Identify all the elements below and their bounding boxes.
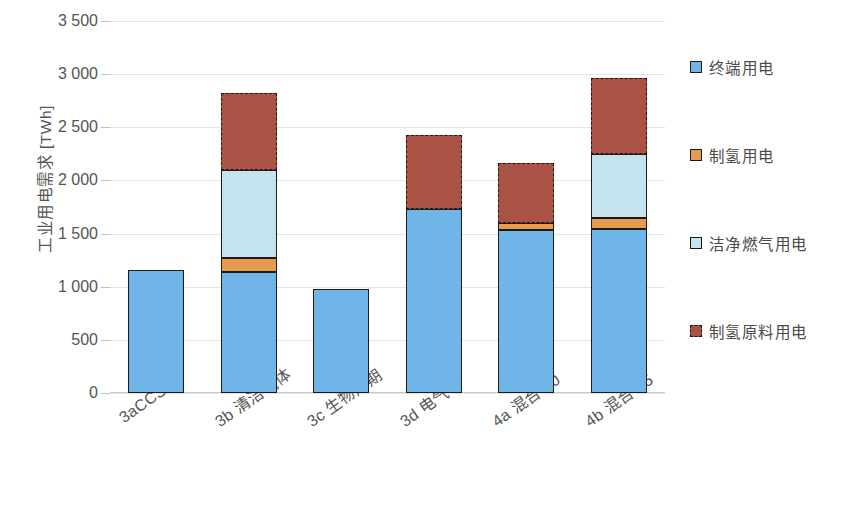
bar-group[interactable] [313,21,369,393]
bar-group[interactable] [406,21,462,393]
bar-group[interactable] [221,21,277,393]
bar-segment[interactable] [221,272,277,393]
plot-area [110,21,665,393]
y-axis-tick-marks [101,21,110,393]
y-tick-label: 1 000 [12,278,98,296]
legend-swatch-icon [690,325,702,337]
legend-swatch-icon [690,149,702,161]
bar-group[interactable] [498,21,554,393]
bar-chart: 工业用电需求 [TWh] 3 5003 0002 5002 0001 5001 … [0,0,846,506]
legend-item[interactable]: 制氢用电 [690,144,775,166]
y-axis-tick-labels: 3 5003 0002 5002 0001 5001 0005000 [12,21,98,393]
y-tick-label: 0 [12,384,98,402]
bar-segment[interactable] [498,230,554,393]
bar-segment[interactable] [406,135,462,209]
y-tick-label: 500 [12,331,98,349]
y-tick-label: 2 000 [12,171,98,189]
bar-segment[interactable] [128,270,184,393]
bar-segment[interactable] [591,78,647,153]
bar-segment[interactable] [591,218,647,230]
legend-label: 制氢原料用电 [709,320,807,342]
bar-segment[interactable] [313,289,369,393]
legend-label: 制氢用电 [709,144,775,166]
legend-item[interactable]: 洁净燃气用电 [690,232,807,254]
bar-segment[interactable] [406,209,462,393]
y-tick-mark [101,180,110,181]
bar-group[interactable] [591,21,647,393]
bar-group[interactable] [128,21,184,393]
y-tick-mark [101,234,110,235]
y-tick-mark [101,340,110,341]
legend-label: 终端用电 [709,56,775,78]
legend-item[interactable]: 制氢原料用电 [690,320,807,342]
y-tick-label: 3 000 [12,65,98,83]
bar-segment[interactable] [498,163,554,223]
bar-segment[interactable] [221,258,277,272]
x-axis-tick-labels: 3aCCS3b 清洁气体3c 生物周期3d 电气4a 混合 804b 混合 95 [110,398,665,506]
y-tick-mark [101,74,110,75]
y-tick-label: 2 500 [12,118,98,136]
legend-swatch-icon [690,61,702,73]
gridline [110,393,665,394]
y-tick-label: 3 500 [12,12,98,30]
legend-label: 洁净燃气用电 [709,232,807,254]
bar-segment[interactable] [498,223,554,230]
legend-swatch-icon [690,237,702,249]
legend-item[interactable]: 终端用电 [690,56,775,78]
bar-segment[interactable] [221,170,277,258]
y-tick-mark [101,393,110,394]
y-tick-mark [101,21,110,22]
bar-segment[interactable] [221,93,277,170]
bar-segment[interactable] [591,229,647,393]
bar-series-layer [110,21,665,393]
bar-segment[interactable] [591,154,647,218]
y-tick-label: 1 500 [12,225,98,243]
y-tick-mark [101,287,110,288]
x-axis-baseline [110,392,665,393]
y-tick-mark [101,127,110,128]
